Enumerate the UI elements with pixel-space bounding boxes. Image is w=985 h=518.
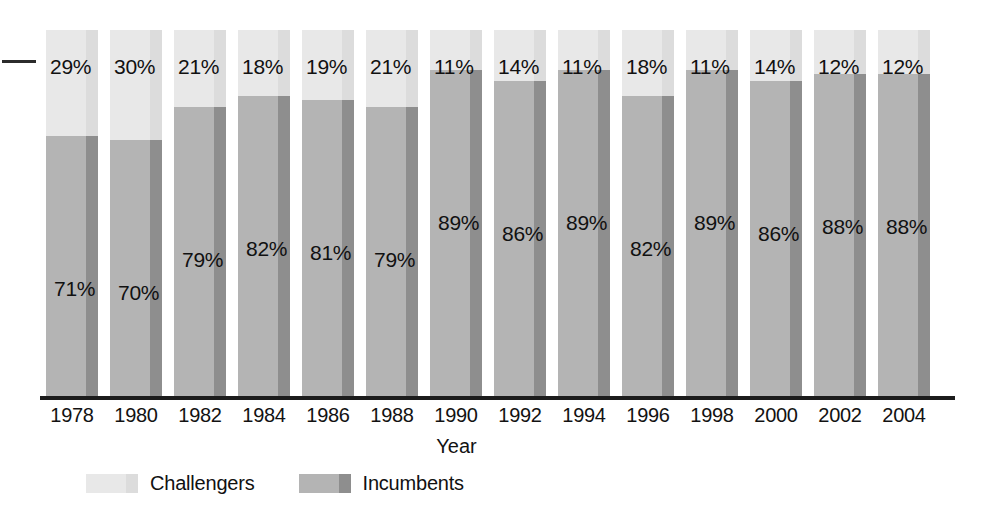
bar-group: 11%89%: [558, 30, 610, 396]
bar-segment-label: 82%: [242, 238, 287, 259]
bar-segment-label: 12%: [878, 56, 923, 77]
bar-group: 14%86%: [494, 30, 546, 396]
bar-segment-label: 86%: [754, 223, 799, 244]
bar-segment-label: 89%: [690, 212, 735, 233]
bar-segment-incumbents: 88%: [814, 74, 866, 396]
bar-segment-challengers: 21%: [366, 30, 418, 107]
bar-segment-label: 14%: [494, 56, 539, 77]
x-axis-tick-label: 1978: [46, 404, 98, 427]
bar-segment-challengers: 12%: [878, 30, 930, 74]
bar-segment-incumbents: 79%: [174, 107, 226, 396]
bar-segment-label: 30%: [110, 56, 155, 77]
bar-segment-label: 11%: [430, 56, 474, 77]
bar-segment-incumbents: 86%: [494, 81, 546, 396]
bar-segment-label: 70%: [114, 282, 159, 303]
x-axis-tick-labels: 1978198019821984198619881990199219941996…: [46, 404, 943, 427]
bar-group: 21%79%: [366, 30, 418, 396]
x-axis-tick-label: 2004: [878, 404, 930, 427]
bar-group: 11%89%: [686, 30, 738, 396]
bar-segment-challengers: 29%: [46, 30, 98, 136]
x-axis-tick-label: 1982: [174, 404, 226, 427]
bar-segment-incumbents: 71%: [46, 136, 98, 396]
bar-segment-incumbents: 89%: [430, 70, 482, 396]
bar-group: 12%88%: [814, 30, 866, 396]
bar-segment-incumbents: 82%: [238, 96, 290, 396]
bar-segment-challengers: 30%: [110, 30, 162, 140]
x-axis-line: [40, 396, 955, 400]
bar-group: 18%82%: [622, 30, 674, 396]
bar-segment-label: 18%: [238, 56, 283, 77]
bar-segment-label: 19%: [302, 56, 347, 77]
bar-segment-challengers: 14%: [494, 30, 546, 81]
chart-legend: ChallengersIncumbents: [86, 472, 464, 495]
bar-segment-label: 71%: [50, 278, 95, 299]
bar-group: 19%81%: [302, 30, 354, 396]
x-axis-tick-label: 1984: [238, 404, 290, 427]
bar-segment-label: 21%: [174, 56, 219, 77]
bar-segment-incumbents: 70%: [110, 140, 162, 396]
plot-area: 29%71%30%70%21%79%18%82%19%81%21%79%11%8…: [46, 30, 943, 396]
challenger-swatch: [86, 474, 138, 493]
bar-segment-challengers: 18%: [238, 30, 290, 96]
bar-segment-label: 18%: [622, 56, 667, 77]
x-axis-tick-label: 1996: [622, 404, 674, 427]
incumbent-swatch: [299, 474, 351, 493]
x-axis-tick-label: 1988: [366, 404, 418, 427]
bar-segment-label: 81%: [306, 242, 351, 263]
left-axis-tick-icon: [2, 60, 36, 63]
bar-segment-incumbents: 86%: [750, 81, 802, 396]
bar-segment-label: 79%: [370, 249, 415, 270]
bar-segment-incumbents: 89%: [558, 70, 610, 396]
bar-segment-label: 88%: [882, 216, 927, 237]
legend-item[interactable]: Incumbents: [299, 472, 464, 495]
bar-group: 21%79%: [174, 30, 226, 396]
bar-segment-challengers: 21%: [174, 30, 226, 107]
bar-segment-label: 21%: [366, 56, 411, 77]
bar-segment-label: 88%: [818, 216, 863, 237]
x-axis-tick-label: 1992: [494, 404, 546, 427]
bar-group: 11%89%: [430, 30, 482, 396]
bar-segment-challengers: 12%: [814, 30, 866, 74]
bar-segment-label: 89%: [434, 212, 479, 233]
bar-segment-label: 14%: [750, 56, 795, 77]
bar-segment-challengers: 11%: [558, 30, 610, 70]
bar-segment-challengers: 11%: [686, 30, 738, 70]
bar-group: 14%86%: [750, 30, 802, 396]
bar-group: 12%88%: [878, 30, 930, 396]
legend-item-label: Incumbents: [363, 472, 464, 495]
bar-segment-challengers: 11%: [430, 30, 482, 70]
bar-segment-incumbents: 81%: [302, 100, 354, 396]
bar-segment-incumbents: 79%: [366, 107, 418, 396]
bar-segment-label: 89%: [562, 212, 607, 233]
x-axis-tick-label: 1986: [302, 404, 354, 427]
bar-segment-label: 86%: [498, 223, 543, 244]
bar-segment-incumbents: 88%: [878, 74, 930, 396]
bar-segment-label: 11%: [558, 56, 602, 77]
x-axis-tick-label: 1980: [110, 404, 162, 427]
bar-segment-challengers: 19%: [302, 30, 354, 100]
x-axis-tick-label: 2002: [814, 404, 866, 427]
bar-segment-label: 12%: [814, 56, 859, 77]
x-axis-tick-label: 1994: [558, 404, 610, 427]
x-axis-tick-label: 2000: [750, 404, 802, 427]
bar-group: 29%71%: [46, 30, 98, 396]
bar-segment-label: 82%: [626, 238, 671, 259]
bar-group: 18%82%: [238, 30, 290, 396]
legend-item[interactable]: Challengers: [86, 472, 255, 495]
bar-group: 30%70%: [110, 30, 162, 396]
legend-item-label: Challengers: [150, 472, 255, 495]
bar-segment-challengers: 18%: [622, 30, 674, 96]
bar-segment-label: 79%: [178, 249, 223, 270]
stacked-bar-chart: 29%71%30%70%21%79%18%82%19%81%21%79%11%8…: [0, 0, 985, 518]
bar-segment-label: 29%: [46, 56, 91, 77]
bar-segment-challengers: 14%: [750, 30, 802, 81]
x-axis-title: Year: [0, 435, 913, 458]
bar-segment-label: 11%: [686, 56, 730, 77]
bar-segment-incumbents: 82%: [622, 96, 674, 396]
bar-segment-incumbents: 89%: [686, 70, 738, 396]
x-axis-tick-label: 1998: [686, 404, 738, 427]
x-axis-tick-label: 1990: [430, 404, 482, 427]
